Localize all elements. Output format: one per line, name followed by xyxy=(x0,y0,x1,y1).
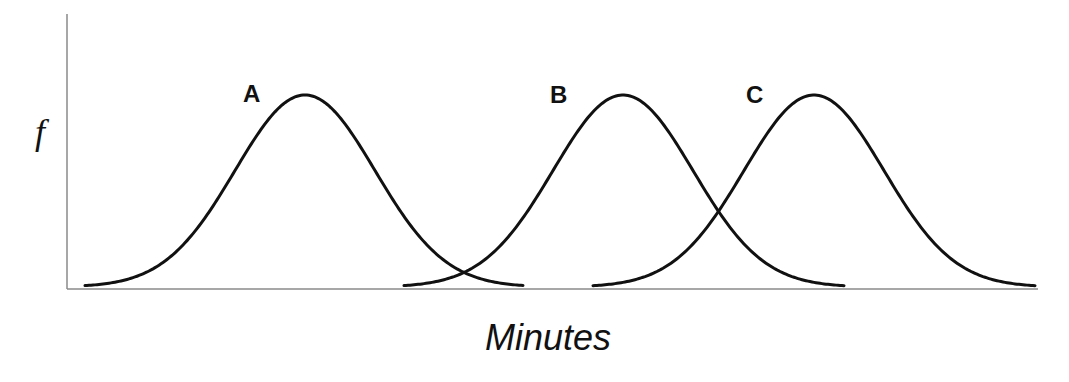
curve-labels-group: ABC xyxy=(243,80,763,108)
distribution-chart: ABC f Minutes xyxy=(0,0,1069,382)
curve-label-a: A xyxy=(243,80,260,107)
curve-b xyxy=(404,95,844,286)
x-axis-label: Minutes xyxy=(485,317,611,358)
curve-label-b: B xyxy=(550,81,567,108)
curves-group xyxy=(85,95,1035,286)
curve-a xyxy=(85,95,523,286)
curve-c xyxy=(593,95,1035,286)
curve-label-c: C xyxy=(746,81,763,108)
y-axis-label: f xyxy=(35,112,50,152)
